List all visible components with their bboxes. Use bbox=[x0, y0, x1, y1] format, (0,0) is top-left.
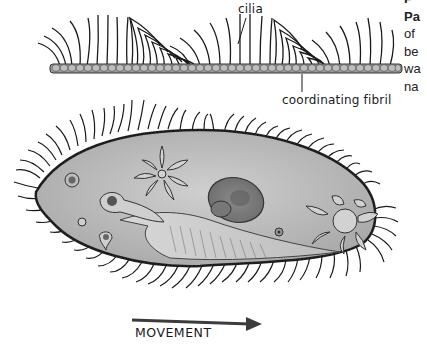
coordinating-fibril-label: coordinating fibril bbox=[282, 93, 392, 107]
micronucleus bbox=[211, 201, 231, 217]
cilia-row bbox=[38, 14, 394, 66]
caption-line-5: na bbox=[404, 78, 421, 96]
paramecium-diagram bbox=[0, 0, 427, 346]
cilia-leader-line bbox=[238, 18, 246, 44]
caption-line-1: Pa bbox=[404, 8, 421, 26]
movement-label: MOVEMENT bbox=[135, 325, 212, 340]
caption-line-3: be bbox=[404, 43, 421, 61]
side-caption: P Pa of be wa na bbox=[404, 0, 421, 95]
coordinating-fibril bbox=[50, 64, 402, 73]
caption-line-2: of bbox=[404, 25, 421, 43]
caption-line-4: wa bbox=[404, 60, 421, 78]
caption-line-0: P bbox=[404, 0, 421, 8]
cilia-label: cilia bbox=[238, 2, 263, 16]
small-vacuole bbox=[78, 218, 86, 226]
